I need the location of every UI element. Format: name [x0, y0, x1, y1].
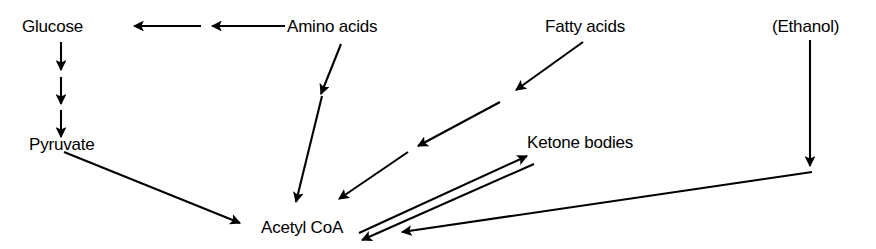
arrow-layer [0, 0, 876, 249]
node-label-acetyl-coa: Acetyl CoA [261, 219, 343, 236]
metabolic-pathway-diagram: Glucose Amino acids Fatty acids (Ethanol… [0, 0, 876, 249]
edge-amino-to-acetyl-2 [296, 96, 322, 202]
edge-ethanol-to-acetyl [402, 172, 812, 232]
node-label-pyruvate: Pyruvate [29, 136, 95, 153]
edge-fatty-to-acetyl-3 [339, 152, 408, 199]
node-label-fatty-acids: Fatty acids [545, 18, 625, 35]
node-label-amino-acids: Amino acids [287, 18, 377, 35]
edge-fatty-to-acetyl-1 [516, 42, 583, 90]
edge-amino-to-acetyl-1 [321, 44, 341, 94]
node-label-ketone-bodies: Ketone bodies [527, 134, 633, 151]
edge-fatty-to-acetyl-2 [418, 102, 500, 146]
node-label-glucose: Glucose [22, 18, 83, 35]
edge-ketone-to-acetyl [362, 164, 534, 240]
edge-pyruvate-to-acetyl [64, 152, 240, 223]
node-label-ethanol: (Ethanol) [772, 18, 839, 35]
